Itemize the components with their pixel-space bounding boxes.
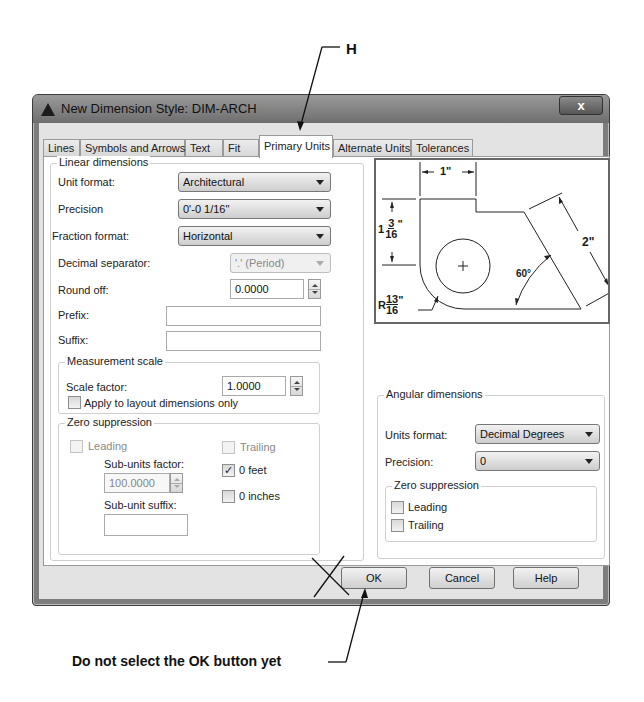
dimension-preview: 1" 1 3 16 " 2" 60° R 13 16 [374, 158, 610, 324]
close-icon: x [577, 98, 584, 113]
chevron-down-icon [585, 459, 593, 464]
preview-drawing [376, 160, 608, 322]
sub-unit-suffix-label: Sub-unit suffix: [104, 499, 177, 511]
zero-feet-checkbox[interactable]: ✓ [222, 464, 235, 477]
measurement-scale-legend: Measurement scale [65, 355, 165, 367]
spin-down-icon [312, 291, 318, 294]
spin-down-icon [174, 485, 180, 488]
tab-lines[interactable]: Lines [43, 139, 80, 157]
angular-units-format-label: Units format: [385, 429, 447, 441]
linear-dimensions-legend: Linear dimensions [57, 156, 150, 168]
unit-format-value: Architectural [183, 176, 244, 188]
ok-button[interactable]: OK [341, 567, 407, 589]
suffix-input[interactable] [166, 331, 321, 351]
tab-tolerances[interactable]: Tolerances [411, 139, 473, 157]
precision-value: 0'-0 1/16" [183, 203, 229, 215]
close-button[interactable]: x [559, 96, 603, 115]
angular-trailing-label: Trailing [408, 519, 444, 531]
decimal-separator-label: Decimal separator: [58, 257, 150, 269]
chevron-down-icon [316, 261, 324, 266]
title-bar[interactable]: New Dimension Style: DIM-ARCH x [33, 95, 609, 123]
zero-inches-checkbox[interactable] [222, 490, 235, 503]
chevron-down-icon [316, 234, 324, 239]
spin-up-icon [294, 381, 300, 384]
leading-checkbox[interactable] [70, 440, 83, 453]
tab-symbols-and-arrows[interactable]: Symbols and Arrows [80, 139, 185, 157]
trailing-checkbox[interactable] [222, 441, 235, 454]
tab-fit[interactable]: Fit [223, 139, 259, 157]
scale-factor-spinner[interactable] [290, 376, 303, 396]
preview-dim-radius: R 13 16 " [378, 294, 403, 315]
window-title: New Dimension Style: DIM-ARCH [61, 101, 257, 116]
chevron-down-icon [316, 207, 324, 212]
apply-layout-checkbox[interactable] [68, 396, 81, 409]
apply-layout-label: Apply to layout dimensions only [84, 397, 238, 409]
chevron-down-icon [585, 432, 593, 437]
sub-unit-suffix-input[interactable] [104, 514, 188, 536]
spin-up-icon [312, 284, 318, 287]
tab-primary-units[interactable]: Primary Units [259, 135, 333, 158]
preview-dim-right: 2" [582, 235, 594, 249]
unit-format-label: Unit format: [58, 176, 115, 188]
decimal-separator-dropdown[interactable]: '.' (Period) [230, 253, 331, 273]
cancel-button[interactable]: Cancel [429, 567, 495, 589]
preview-dim-left-den: 16 [385, 229, 397, 239]
preview-dim-top: 1" [440, 165, 451, 177]
unit-format-dropdown[interactable]: Architectural [178, 172, 331, 192]
tab-alternate-units[interactable]: Alternate Units [333, 139, 411, 157]
zero-suppression-linear-legend: Zero suppression [65, 416, 154, 428]
sub-units-factor-spinner[interactable] [170, 473, 183, 493]
annotation-note: Do not select the OK button yet [72, 653, 281, 669]
preview-dim-radius-prefix: R [378, 299, 386, 311]
spin-up-icon [174, 478, 180, 481]
autocad-logo-icon [41, 103, 55, 116]
prefix-input[interactable] [166, 306, 321, 326]
chevron-down-icon [316, 180, 324, 185]
decimal-separator-value: '.' (Period) [235, 257, 284, 269]
preview-dim-left: 1 3 16 " [378, 218, 403, 239]
sub-units-factor-input[interactable]: 100.0000 [104, 473, 170, 493]
preview-dim-angle: 60° [516, 268, 531, 279]
spin-down-icon [294, 388, 300, 391]
angular-trailing-checkbox[interactable] [391, 519, 404, 532]
angular-dimensions-legend: Angular dimensions [384, 388, 485, 400]
angular-zero-suppression-legend: Zero suppression [392, 479, 481, 491]
angular-leading-checkbox[interactable] [391, 501, 404, 514]
angular-leading-label: Leading [408, 501, 447, 513]
angular-precision-dropdown[interactable]: 0 [475, 451, 600, 471]
scale-factor-label: Scale factor: [66, 381, 127, 393]
preview-dim-left-whole: 1 [378, 223, 384, 235]
sub-units-factor-label: Sub-units factor: [104, 458, 184, 470]
help-button[interactable]: Help [513, 567, 579, 589]
round-off-input[interactable]: 0.0000 [230, 279, 304, 299]
round-off-spinner[interactable] [308, 279, 321, 299]
preview-dim-radius-unit: " [398, 294, 403, 306]
dialog-body: Lines Symbols and Arrows Text Fit Primar… [39, 123, 603, 599]
angular-units-format-dropdown[interactable]: Decimal Degrees [475, 424, 600, 444]
leading-label: Leading [88, 440, 127, 452]
tab-text[interactable]: Text [185, 139, 223, 157]
preview-dim-radius-den: 16 [386, 305, 398, 315]
dialog-window: New Dimension Style: DIM-ARCH x Lines Sy… [32, 94, 610, 606]
fraction-format-label: Fraction format: [52, 230, 129, 242]
precision-dropdown[interactable]: 0'-0 1/16" [178, 199, 331, 219]
suffix-label: Suffix: [58, 334, 88, 346]
preview-dim-left-unit: " [397, 218, 402, 230]
angular-precision-value: 0 [480, 455, 486, 467]
primary-units-panel: Linear dimensions Unit format: Architect… [43, 156, 610, 566]
angular-zero-suppression-group: Zero suppression [385, 486, 597, 542]
zero-feet-label: 0 feet [239, 464, 267, 476]
trailing-label: Trailing [240, 441, 276, 453]
zero-inches-label: 0 inches [239, 490, 280, 502]
angular-units-format-value: Decimal Degrees [480, 428, 564, 440]
annotation-label-h: H [346, 40, 357, 57]
precision-label: Precision [58, 203, 103, 215]
prefix-label: Prefix: [58, 309, 89, 321]
scale-factor-input[interactable]: 1.0000 [222, 376, 286, 396]
fraction-format-value: Horizontal [183, 230, 233, 242]
fraction-format-dropdown[interactable]: Horizontal [178, 226, 331, 246]
angular-precision-label: Precision: [385, 456, 433, 468]
round-off-label: Round off: [58, 284, 109, 296]
